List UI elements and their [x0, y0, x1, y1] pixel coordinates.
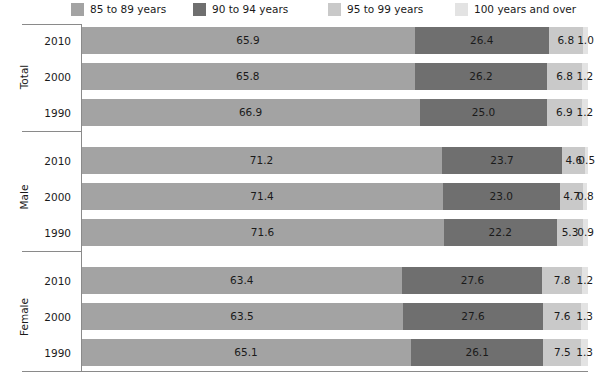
bar-segment: 26.1 [411, 339, 543, 366]
legend-item[interactable]: 95 to 99 years [328, 3, 423, 16]
bar-value-label: 1.2 [577, 107, 594, 118]
bar-value-label: 63.5 [230, 311, 253, 322]
legend-swatch-icon [193, 3, 206, 16]
bar-value-label: 23.7 [490, 155, 513, 166]
legend-item[interactable]: 85 to 89 years [71, 3, 166, 16]
bar-value-label: 26.4 [470, 35, 493, 46]
bar-value-label: 0.5 [578, 155, 595, 166]
legend-item[interactable]: 90 to 94 years [193, 3, 288, 16]
axis-rule [22, 131, 81, 132]
legend-label: 100 years and over [474, 3, 576, 16]
bar-segment: 0.9 [583, 219, 588, 246]
year-axis-label: 2010 [0, 147, 79, 174]
axis-rule [22, 371, 588, 372]
bar-value-label: 66.9 [239, 107, 262, 118]
bar-value-label: 1.2 [577, 71, 594, 82]
year-axis-label: 2000 [0, 183, 79, 210]
bar-segment: 27.6 [402, 267, 542, 294]
bar-segment: 66.9 [81, 99, 420, 126]
bar-value-label: 1.3 [576, 347, 593, 358]
bar-value-label: 71.6 [251, 227, 274, 238]
bar-segment: 1.2 [582, 63, 588, 90]
bar-segment: 65.1 [81, 339, 411, 366]
bar-row: 63.527.67.61.3 [81, 303, 588, 330]
bar-segment: 0.8 [583, 183, 587, 210]
bar-value-label: 1.0 [577, 35, 594, 46]
bar-row: 66.925.06.91.2 [81, 99, 588, 126]
axis-rule [22, 251, 81, 252]
bar-value-label: 63.4 [230, 275, 253, 286]
bar-value-label: 25.0 [472, 107, 495, 118]
bar-segment: 0.5 [585, 147, 588, 174]
year-axis-label: 2010 [0, 267, 79, 294]
bar-segment: 65.9 [81, 27, 415, 54]
bar-value-label: 7.8 [554, 275, 571, 286]
legend-swatch-icon [328, 3, 341, 16]
bar-value-label: 0.9 [577, 227, 594, 238]
bar-segment: 63.5 [81, 303, 403, 330]
bar-row: 71.622.25.30.9 [81, 219, 588, 246]
group-axis-label-text: Total [18, 64, 30, 89]
bar-segment: 71.2 [81, 147, 442, 174]
plot-area: 65.926.46.81.065.826.26.81.266.925.06.91… [81, 24, 588, 364]
group-axis-label: Female [14, 267, 34, 366]
year-axis-label: 1990 [0, 99, 79, 126]
group-axis-label-text: Female [18, 298, 30, 336]
bar-value-label: 5.3 [562, 227, 579, 238]
bar-value-label: 27.6 [461, 311, 484, 322]
bar-value-label: 7.5 [554, 347, 571, 358]
bar-value-label: 71.2 [250, 155, 273, 166]
bar-value-label: 26.2 [469, 71, 492, 82]
bar-segment: 71.4 [81, 183, 443, 210]
legend-label: 95 to 99 years [347, 3, 423, 16]
year-axis-label: 2000 [0, 303, 79, 330]
legend-swatch-icon [455, 3, 468, 16]
year-axis-label: 1990 [0, 339, 79, 366]
bar-segment: 27.6 [403, 303, 543, 330]
bar-value-label: 6.8 [556, 71, 573, 82]
bar-value-label: 65.9 [236, 35, 259, 46]
chart-legend: 85 to 89 years90 to 94 years95 to 99 yea… [0, 0, 588, 22]
bar-value-label: 6.8 [557, 35, 574, 46]
bar-segment: 25.0 [420, 99, 547, 126]
bar-row: 71.223.74.60.5 [81, 147, 588, 174]
year-axis-label: 2000 [0, 63, 79, 90]
bar-segment: 23.7 [442, 147, 562, 174]
bar-value-label: 71.4 [250, 191, 273, 202]
bar-segment: 1.3 [581, 339, 588, 366]
legend-label: 90 to 94 years [212, 3, 288, 16]
bar-segment: 63.4 [81, 267, 402, 294]
group-axis-label-text: Male [18, 184, 30, 209]
bar-segment: 26.2 [415, 63, 548, 90]
legend-item[interactable]: 100 years and over [455, 3, 576, 16]
year-axis-label: 2010 [0, 27, 79, 54]
bar-segment: 1.2 [582, 99, 588, 126]
legend-swatch-icon [71, 3, 84, 16]
bar-segment: 1.3 [581, 303, 588, 330]
group-axis-label: Male [14, 147, 34, 246]
year-axis-label: 1990 [0, 219, 79, 246]
bar-segment: 1.0 [583, 27, 588, 54]
axis-rule [22, 24, 81, 25]
bar-segment: 23.0 [443, 183, 560, 210]
bar-segment: 26.4 [415, 27, 549, 54]
bar-value-label: 65.1 [234, 347, 257, 358]
bar-value-label: 1.2 [577, 275, 594, 286]
legend-label: 85 to 89 years [90, 3, 166, 16]
bar-value-label: 0.8 [577, 191, 594, 202]
bar-value-label: 6.9 [556, 107, 573, 118]
bar-value-label: 23.0 [490, 191, 513, 202]
bar-segment: 71.6 [81, 219, 444, 246]
bar-row: 65.826.26.81.2 [81, 63, 588, 90]
bar-value-label: 27.6 [461, 275, 484, 286]
bar-value-label: 7.6 [554, 311, 571, 322]
axis-vertical-rule [81, 24, 82, 371]
bar-value-label: 22.2 [489, 227, 512, 238]
bar-row: 65.926.46.81.0 [81, 27, 588, 54]
bar-value-label: 26.1 [466, 347, 489, 358]
bar-segment: 22.2 [444, 219, 557, 246]
group-axis-label: Total [14, 27, 34, 126]
bar-row: 63.427.67.81.2 [81, 267, 588, 294]
bar-value-label: 65.8 [236, 71, 259, 82]
